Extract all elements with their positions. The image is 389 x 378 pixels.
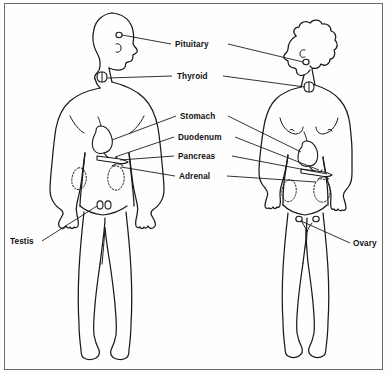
male-ear [116, 44, 121, 53]
leader-pituitary-female [228, 44, 303, 62]
label-pituitary[interactable]: Pituitary [175, 40, 209, 49]
female-breast-left [280, 118, 303, 134]
female-left-leg [282, 213, 303, 358]
male-right-leg [105, 212, 132, 360]
female-hip-line [283, 205, 327, 215]
female-ear [300, 50, 305, 58]
male-testis-right [105, 201, 111, 209]
male-waist-left [80, 153, 85, 206]
label-ovary[interactable]: Ovary [353, 239, 377, 248]
leader-thyroid-female [223, 76, 305, 87]
female-left-outline [259, 87, 301, 209]
female-figure [259, 20, 352, 357]
anatomy-illustration: Pituitary Thyroid Stomach Duodenum Pancr… [0, 0, 389, 378]
label-texts: Pituitary Thyroid Stomach Duodenum Pancr… [10, 40, 377, 248]
leader-adrenal-male [121, 167, 175, 176]
male-waist-right [129, 153, 134, 206]
label-testis[interactable]: Testis [10, 237, 34, 246]
male-chest-left [70, 116, 84, 133]
leader-stomach-male [112, 116, 176, 140]
label-thyroid[interactable]: Thyroid [177, 72, 208, 81]
leader-pancreas-male [120, 156, 174, 160]
leader-testis [42, 206, 97, 241]
male-adrenal-right [108, 166, 124, 190]
male-figure [50, 13, 164, 360]
female-esophagus [304, 132, 307, 141]
male-face-profile [109, 13, 137, 70]
female-face-profile [284, 36, 310, 75]
leader-thyroid-male [107, 76, 172, 78]
male-left-outline [50, 88, 100, 229]
label-pancreas[interactable]: Pancreas [178, 152, 216, 161]
female-neck [301, 75, 304, 87]
female-nipple-left [290, 129, 294, 131]
leader-pituitary-male [122, 35, 171, 44]
female-right-leg [306, 213, 329, 358]
male-left-leg [78, 212, 100, 360]
male-esophagus [98, 117, 101, 126]
female-ovary-right [313, 216, 319, 221]
label-duodenum[interactable]: Duodenum [178, 133, 222, 142]
male-hip-line [80, 206, 127, 215]
female-pituitary-gland [303, 59, 309, 64]
diagram-canvas: Pituitary Thyroid Stomach Duodenum Pancr… [0, 0, 389, 378]
female-breast-right [316, 118, 338, 134]
male-testis-left [97, 201, 103, 209]
male-pituitary-gland [116, 32, 122, 37]
label-stomach[interactable]: Stomach [180, 112, 215, 121]
leader-duodenum-male [115, 137, 174, 157]
male-adrenal-left [72, 168, 86, 190]
male-neck-front [109, 68, 112, 82]
label-adrenal[interactable]: Adrenal [179, 172, 210, 181]
leader-adrenal-female [227, 176, 316, 182]
male-stomach [92, 126, 112, 153]
female-right-outline [315, 85, 352, 211]
